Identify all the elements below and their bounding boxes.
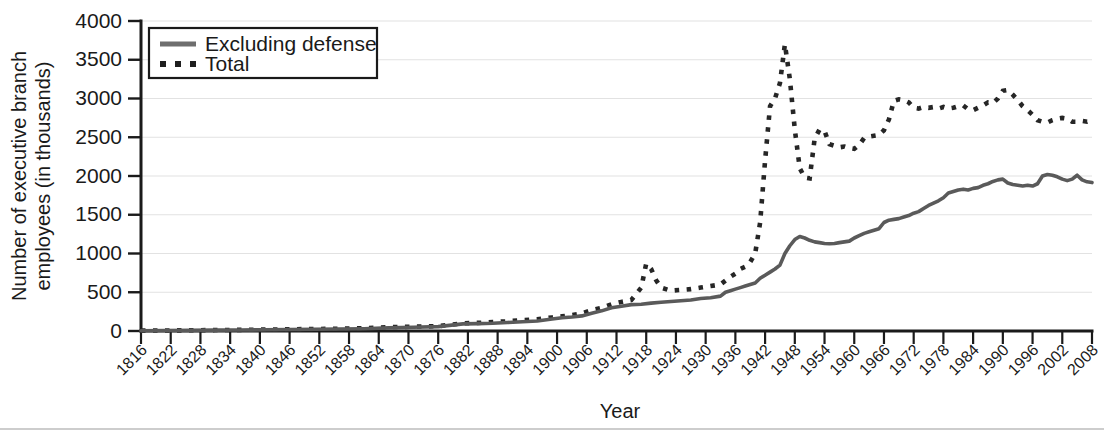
legend-label-total: Total [205,52,249,75]
chart-figure: 40003500300025002000150010005000 1816182… [0,0,1104,430]
y-axis-title-line1: Number of executive branch [8,51,30,301]
y-axis-tick-label: 2500 [75,125,122,148]
y-axis-tick-label: 1000 [75,241,122,264]
legend: Excluding defense Total [149,28,377,78]
y-axis-tick-label: 2000 [75,164,122,187]
y-axis-tick-label: 3000 [75,86,122,109]
y-axis-tick-label: 3500 [75,47,122,70]
y-axis-tick-label: 0 [110,319,122,342]
y-axis-title-line2: employees (in thousands) [32,61,54,290]
y-axis-tick-label: 500 [87,280,122,303]
x-axis-title: Year [600,400,641,422]
y-axis-tick-label: 4000 [75,9,122,32]
employment-line-chart: 40003500300025002000150010005000 1816182… [0,0,1104,430]
y-axis-tick-label: 1500 [75,202,122,225]
